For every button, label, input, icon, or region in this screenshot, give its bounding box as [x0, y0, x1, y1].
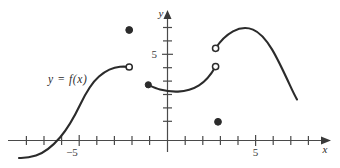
function-label: y = f(x)	[47, 73, 87, 86]
x-axis-label: x	[322, 143, 328, 155]
isolated-filled-point-upper	[126, 27, 133, 34]
y-tick-label-5: 5	[152, 48, 158, 60]
function-graph-figure: −5 5 5 x y y = f(x)	[0, 0, 340, 168]
point-markers	[126, 27, 222, 126]
open-circle-branch3-left	[213, 45, 219, 51]
y-axis-label: y	[158, 7, 164, 19]
x-tick-label-pos5: 5	[253, 146, 259, 158]
x-tick-label-neg5: −5	[66, 146, 78, 158]
graph-canvas: −5 5 5 x y y = f(x)	[0, 0, 340, 168]
y-axis-arrowhead	[164, 10, 172, 19]
filled-circle-branch2-left	[145, 82, 151, 88]
open-circle-branch2-right	[213, 64, 219, 70]
open-circle-branch1-right	[126, 64, 132, 70]
isolated-filled-point-lower	[215, 118, 222, 125]
curve-branch-3	[216, 28, 298, 99]
curve-branch-2	[149, 67, 216, 92]
